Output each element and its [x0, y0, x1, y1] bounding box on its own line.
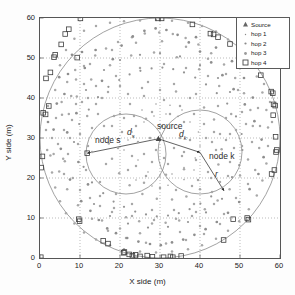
legend-item-hop-3[interactable]: hop 3 — [240, 49, 287, 59]
y-tick-60: 60 — [13, 13, 35, 22]
x-tick-30: 30 — [155, 261, 163, 270]
legend-marker-dot-tiny-icon — [240, 30, 251, 39]
y-tick-10: 10 — [13, 213, 35, 222]
x-tick-0: 0 — [37, 261, 41, 270]
annotation-subscript: s — [132, 133, 135, 139]
legend-label: hop 4 — [251, 60, 266, 66]
y-tick-20: 20 — [13, 173, 35, 182]
chart-root: Y side (m) X side (m) 010203040506001020… — [0, 0, 295, 295]
annotation-d-k: dk — [179, 129, 187, 141]
legend-item-hop-4[interactable]: hop 4 — [240, 58, 287, 68]
x-tick-40: 40 — [195, 261, 203, 270]
legend-marker-triangle-filled-icon — [240, 20, 251, 29]
annotation-subscript: k — [184, 135, 187, 141]
x-tick-60: 60 — [275, 261, 283, 270]
legend[interactable]: Sourcehop 1hop 2hop 3hop 4 — [236, 17, 290, 69]
y-tick-40: 40 — [13, 93, 35, 102]
legend-item-source[interactable]: Source — [240, 20, 287, 30]
x-tick-20: 20 — [115, 261, 123, 270]
y-tick-50: 50 — [13, 53, 35, 62]
annotation-d-s: ds — [127, 127, 135, 139]
y-tick-30: 30 — [13, 133, 35, 142]
legend-item-hop-2[interactable]: hop 2 — [240, 39, 287, 49]
y-axis-title: Y side (m) — [4, 113, 13, 173]
x-tick-10: 10 — [75, 261, 83, 270]
legend-marker-dot-small-icon — [240, 39, 251, 48]
annotation-node-k: node k — [209, 151, 235, 161]
legend-label: Source — [251, 22, 271, 28]
y-tick-0: 0 — [13, 253, 35, 262]
legend-marker-square-open-icon — [240, 58, 251, 67]
x-axis-title: X side (m) — [0, 277, 295, 286]
annotation-node-s: node s — [95, 135, 121, 145]
legend-marker-dot-icon — [240, 49, 251, 58]
legend-item-hop-1[interactable]: hop 1 — [240, 30, 287, 40]
legend-label: hop 2 — [251, 41, 266, 47]
x-tick-50: 50 — [235, 261, 243, 270]
legend-label: hop 3 — [251, 50, 266, 56]
legend-label: hop 1 — [251, 31, 266, 37]
annotation-radius-r: r — [215, 169, 218, 179]
